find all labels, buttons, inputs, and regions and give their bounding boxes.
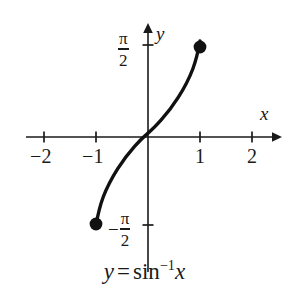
x-axis-label: x	[260, 104, 268, 123]
y-tick-label-pi-over-2: π 2	[118, 30, 129, 69]
caption-x-variable: x	[175, 259, 185, 284]
caption-function-name: sin	[133, 259, 160, 284]
fraction-denominator-2: 2	[118, 51, 129, 69]
minus-sign: −	[108, 220, 120, 239]
figure-caption: y=sin−1x	[0, 258, 289, 283]
caption-y-variable: y	[104, 259, 114, 284]
fraction-numerator-pi: π	[118, 30, 129, 48]
upper-endpoint-dot	[194, 41, 207, 54]
fraction-numerator-pi: π	[120, 210, 131, 228]
x-tick-label-neg2: −2	[30, 146, 52, 166]
caption-exponent: −1	[160, 257, 175, 273]
fraction-denominator-2: 2	[120, 231, 131, 249]
fraction-pi-over-2: π 2	[118, 30, 129, 69]
x-tick-label-1: 1	[195, 146, 205, 166]
x-axis-arrowhead-icon	[272, 132, 282, 142]
fraction-bar	[118, 48, 129, 50]
y-axis-arrowhead-icon	[143, 23, 153, 33]
y-axis-label: y	[156, 24, 164, 43]
caption-equals-sign: =	[114, 259, 133, 284]
lower-endpoint-dot	[90, 218, 103, 231]
fraction-pi-over-2-negative: π 2	[120, 210, 131, 249]
y-tick-label-neg-pi-over-2: − π 2	[108, 210, 130, 249]
arcsine-graph-figure: x y −2 −1 1 2 π 2 − π 2 y=sin−1x	[0, 0, 289, 295]
x-tick-label-neg1: −1	[82, 146, 104, 166]
x-tick-label-2: 2	[247, 146, 257, 166]
fraction-bar	[120, 228, 131, 230]
